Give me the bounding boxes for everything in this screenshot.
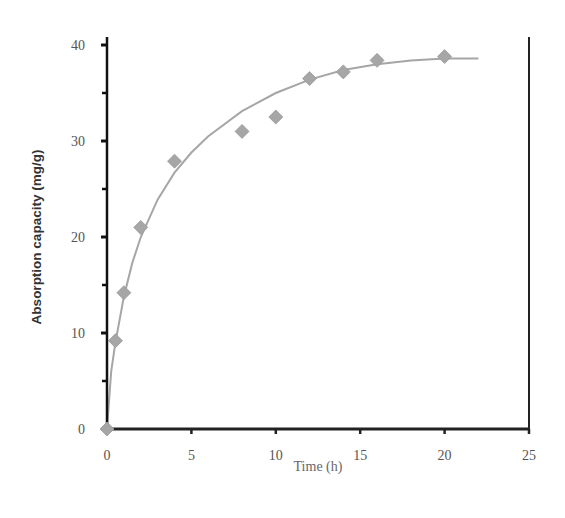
y-tick-label: 40 xyxy=(71,38,85,53)
x-tick-label: 20 xyxy=(438,448,452,463)
data-point xyxy=(100,422,114,436)
y-tick-label: 10 xyxy=(71,326,85,341)
fit-curve-layer xyxy=(107,58,478,429)
data-point xyxy=(235,124,249,138)
data-point xyxy=(108,334,122,348)
data-point xyxy=(303,72,317,86)
x-axis-title: Time (h) xyxy=(294,459,343,475)
y-tick-label: 30 xyxy=(71,134,85,149)
y-tick-label: 0 xyxy=(78,422,85,437)
data-point xyxy=(336,65,350,79)
fit-curve-line xyxy=(107,58,478,429)
x-tick-label: 25 xyxy=(522,448,536,463)
chart: 010203040 0510152025 Absorption capacity… xyxy=(0,0,565,518)
x-tick-label: 10 xyxy=(269,448,283,463)
data-point xyxy=(438,50,452,64)
y-tick-label: 20 xyxy=(71,230,85,245)
x-tick-label: 0 xyxy=(104,448,111,463)
data-point xyxy=(269,110,283,124)
y-axis-title: Absorption capacity (mg/g) xyxy=(29,150,44,325)
axes xyxy=(107,37,529,430)
x-tick-label: 5 xyxy=(188,448,195,463)
data-points-layer xyxy=(100,50,452,436)
data-point xyxy=(117,286,131,300)
data-point xyxy=(134,220,148,234)
x-tick-label: 15 xyxy=(353,448,367,463)
y-axis-ticks: 010203040 xyxy=(71,38,107,437)
x-axis-ticks: 0510152025 xyxy=(104,429,537,463)
